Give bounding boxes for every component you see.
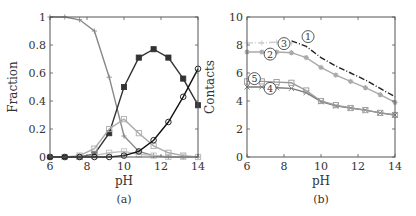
annotation-label: 3: [281, 38, 287, 49]
marker-filled-square: [166, 55, 171, 60]
y-tick-label: 0.2: [29, 123, 47, 136]
marker-filled-square: [181, 76, 186, 81]
annotation-4: 4: [264, 82, 276, 94]
y-tick-label: 8: [236, 39, 243, 52]
y-tick-label: 0.6: [29, 67, 47, 80]
marker-star: [333, 73, 338, 78]
series-line: [50, 49, 198, 157]
series-circle-black: [47, 66, 201, 160]
panel-caption: (a): [116, 193, 131, 206]
annotation-2: 2: [264, 48, 276, 60]
annotation-5: 5: [248, 73, 260, 85]
x-tick-label: 12: [351, 160, 365, 173]
marker-star: [289, 50, 294, 55]
marker-plus: [107, 75, 112, 80]
x-tick-label: 8: [281, 160, 288, 173]
y-tick-label: 0.8: [29, 39, 47, 52]
x-tick-label: 14: [191, 160, 205, 173]
series-line: [50, 69, 198, 157]
annotation-1: 1: [302, 31, 314, 43]
y-tick-label: 6: [236, 67, 243, 80]
chart-panel-b: 681012140246810pHContacts(b)12345: [203, 11, 402, 206]
x-axis-label: pH: [312, 174, 330, 188]
marker-star: [348, 79, 353, 84]
marker-star: [259, 49, 264, 54]
x-tick-label: 14: [388, 160, 402, 173]
marker-plus: [259, 40, 264, 45]
x-tick-label: 8: [84, 160, 91, 173]
series-1: [291, 41, 395, 97]
y-tick-label: 1: [39, 11, 46, 24]
marker-filled-square: [121, 84, 126, 89]
x-tick-label: 12: [154, 160, 168, 173]
marker-star: [318, 65, 323, 70]
annotation-label: 1: [305, 31, 311, 42]
x-tick-label: 6: [244, 160, 251, 173]
x-tick-label: 10: [117, 160, 131, 173]
marker-filled-square: [151, 47, 156, 52]
y-axis-label: Fraction: [6, 61, 20, 113]
annotation-label: 4: [267, 83, 273, 94]
y-tick-label: 0: [236, 151, 243, 164]
y-tick-label: 10: [229, 11, 243, 24]
annotation-3: 3: [278, 38, 290, 50]
marker-star: [363, 85, 368, 90]
marker-star: [378, 92, 383, 97]
y-tick-label: 2: [236, 123, 243, 136]
figure: 6810121400.20.40.60.81pHFraction(a) 6810…: [0, 0, 416, 216]
x-axis-label: pH: [115, 174, 133, 188]
y-tick-label: 0.4: [29, 95, 47, 108]
panel-caption: (b): [313, 193, 329, 206]
annotation-label: 2: [267, 49, 273, 60]
series-filled-square-dark: [47, 47, 200, 160]
series-line: [291, 41, 395, 97]
chart-panel-a: 6810121400.20.40.60.81pHFraction(a): [6, 11, 205, 206]
annotation-label: 5: [251, 73, 257, 84]
y-axis-label: Contacts: [203, 60, 217, 114]
x-tick-label: 6: [47, 160, 54, 173]
y-tick-label: 0: [39, 151, 46, 164]
marker-filled-square: [136, 55, 141, 60]
x-tick-label: 10: [314, 160, 328, 173]
y-tick-label: 4: [236, 95, 243, 108]
